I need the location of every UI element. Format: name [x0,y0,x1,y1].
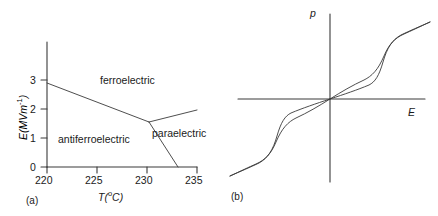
panel-b-hysteresis-loop: p E (b) [219,0,438,216]
x-axis-title: T(oC) [98,190,123,202]
x-tick-label-235: 235 [185,175,203,186]
y-tick-label-3: 3 [30,75,36,86]
x-tick-label-220: 220 [35,175,53,186]
y-axis-title-wrapper: E(MVm-1) [12,95,30,140]
y-axis-title-close: ) [16,95,28,99]
x-tick-label-230: 230 [135,175,153,186]
loop-upper-outer-branch [330,22,430,99]
panel-b-label: (b) [231,192,243,202]
y-tick-label-2: 2 [30,104,36,115]
y-axis-title: E(MVm-1) [15,95,29,140]
boundary-ferro-para [149,110,197,122]
panel-a-phase-diagram: 0 1 2 3 220 225 230 235 T(oC) E(MVm-1) f… [0,0,219,216]
e-axis-title: E [408,107,415,118]
y-axis-title-main: E(MVm [16,105,28,140]
panel-a-label: (a) [26,196,38,206]
figure-container: 0 1 2 3 220 225 230 235 T(oC) E(MVm-1) f… [0,0,438,216]
loop-lower-outer-branch [230,99,330,176]
loop-lower-inner-branch [230,99,330,176]
panel-b-plot [219,0,438,216]
region-label-ferroelectric: ferroelectric [100,75,155,86]
x-tick-label-225: 225 [85,175,103,186]
x-axis-title-main: T( [98,191,108,203]
region-label-paraelectric: paraelectric [152,128,206,139]
region-label-antiferroelectric: antiferroelectric [58,134,130,145]
p-axis-title: p [310,8,316,19]
y-axis-title-exponent: -1 [15,98,24,105]
y-tick-label-0: 0 [30,162,36,173]
loop-upper-inner-branch [330,22,430,99]
boundary-antiferro-ferro [47,83,149,122]
x-axis-title-unit: C) [112,191,123,203]
y-tick-label-1: 1 [30,133,36,144]
